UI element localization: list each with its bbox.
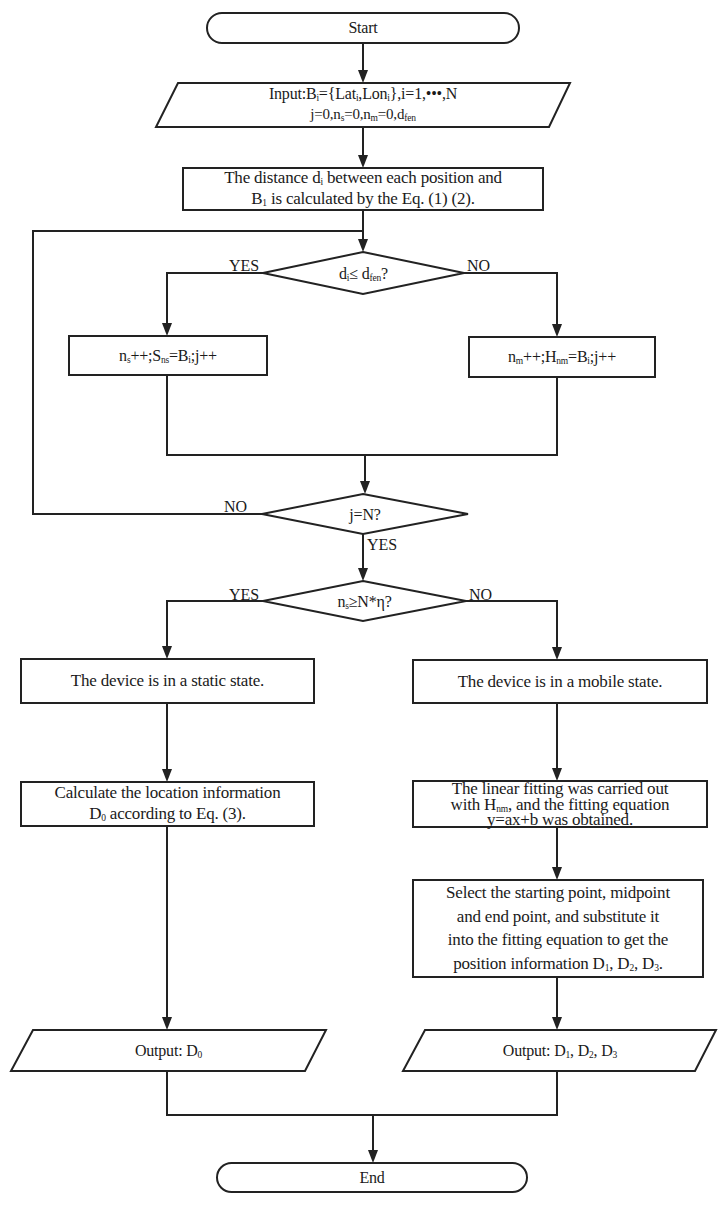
decision1-no-label: NO xyxy=(467,257,490,275)
input-line1: Input:Bi={Lati,Loni},i=1,•••,N xyxy=(160,84,566,104)
output-static-node: Output: D0 xyxy=(22,1040,315,1061)
output-mobile-node: Output: D1, D2, D3 xyxy=(414,1040,706,1061)
decision1-yes-label: YES xyxy=(229,257,259,275)
mobile-count-node: nm++;Hnm=Bi;j++ xyxy=(469,346,655,367)
decision3-yes-label: YES xyxy=(229,586,259,604)
calc-location-node: Calculate the location information D0 ac… xyxy=(21,783,314,824)
distance-line2: B1 is calculated by the Eq. (1) (2). xyxy=(183,189,543,210)
decision2-no-label: NO xyxy=(224,498,247,516)
calc-location-line2: D0 according to Eq. (3). xyxy=(21,804,314,825)
start-node: Start xyxy=(207,17,519,38)
static-count-node: ns++;Sns=Bi;j++ xyxy=(69,345,267,366)
static-state-node: The device is in a static state. xyxy=(21,670,314,691)
input-node: Input:Bi={Lati,Loni},i=1,•••,N j=0,ns=0,… xyxy=(160,84,566,124)
end-node: End xyxy=(217,1167,527,1188)
input-line2: j=0,ns=0,nm=0,dfen xyxy=(160,104,566,124)
start-label: Start xyxy=(348,19,377,36)
decision1-node: di≤ dfen? xyxy=(263,263,464,284)
distance-line1: The distance di between each position an… xyxy=(183,168,543,189)
distance-node: The distance di between each position an… xyxy=(183,168,543,209)
end-label: End xyxy=(359,1169,384,1186)
decision2-yes-label: YES xyxy=(367,536,397,554)
select-points-node: Select the starting point, midpoint and … xyxy=(413,881,703,975)
decision3-no-label: NO xyxy=(469,586,492,604)
decision2-node: j=N? xyxy=(262,504,468,525)
linear-fit-node: The linear fitting was carried out with … xyxy=(413,781,707,828)
mobile-state-node: The device is in a mobile state. xyxy=(413,671,707,692)
decision3-node: ns≥N*η? xyxy=(263,591,466,612)
select-points-line4: position information D1, D2, D3. xyxy=(413,952,703,976)
